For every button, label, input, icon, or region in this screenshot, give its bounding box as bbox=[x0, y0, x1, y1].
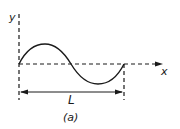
dimension-arrow-left-icon bbox=[20, 90, 28, 95]
x-axis-label: x bbox=[160, 65, 168, 78]
wavelength-label: L bbox=[68, 93, 75, 107]
dimension-arrow-right-icon bbox=[115, 90, 123, 95]
sine-wave-diagram: y x L (a) bbox=[0, 0, 180, 129]
figure-caption: (a) bbox=[63, 111, 78, 124]
y-axis-label: y bbox=[8, 11, 16, 24]
